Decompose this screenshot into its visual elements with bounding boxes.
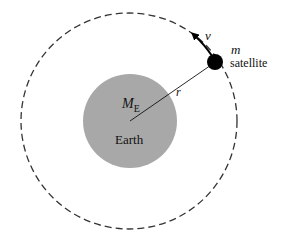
radius-label: r [176,85,181,99]
satellite-label: satellite [230,56,267,70]
satellite-mass-label: m [231,42,240,57]
satellite [207,54,223,70]
earth-label: Earth [115,132,144,147]
velocity-label: v [205,28,211,43]
orbit-diagram: ME Earth r v m satellite [0,0,285,241]
